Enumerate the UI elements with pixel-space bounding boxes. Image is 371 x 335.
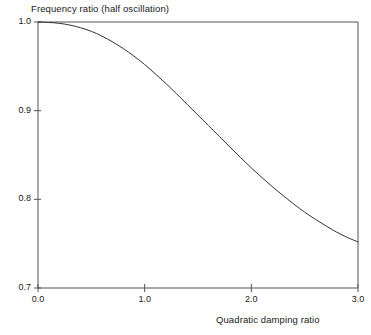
- x-tick-label: 0.0: [23, 294, 53, 304]
- series-line-frequency-ratio: [38, 22, 358, 242]
- tick-marks: [34, 22, 358, 292]
- y-tick-label: 1.0: [5, 16, 31, 26]
- y-tick-label: 0.8: [5, 193, 31, 203]
- x-tick-label: 3.0: [343, 294, 371, 304]
- x-axis-label: Quadratic damping ratio: [216, 314, 320, 325]
- x-tick-label: 1.0: [130, 294, 160, 304]
- y-tick-label: 0.9: [5, 105, 31, 115]
- data-series-group: [38, 22, 358, 242]
- axis-frame: [38, 22, 358, 288]
- y-tick-label: 0.7: [5, 282, 31, 292]
- x-tick-label: 2.0: [236, 294, 266, 304]
- plot-canvas: [0, 0, 371, 335]
- chart-figure: Frequency ratio (half oscillation) 0.70.…: [0, 0, 371, 335]
